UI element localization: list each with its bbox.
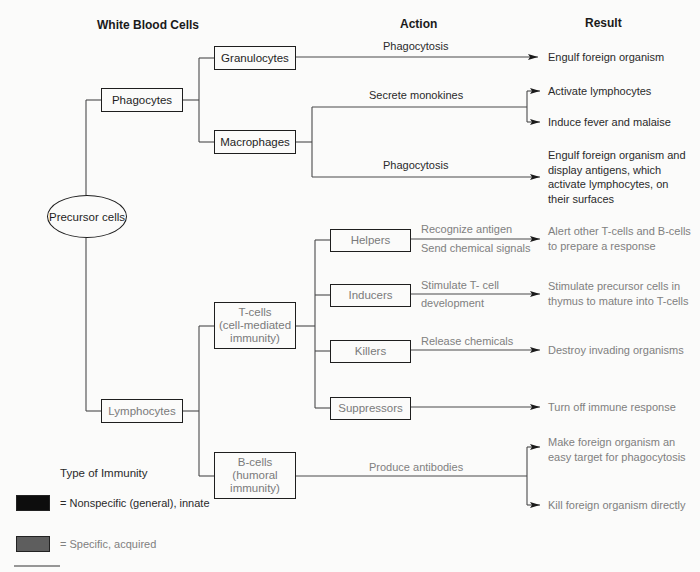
granulocytes-label: Granulocytes [221,52,289,65]
helpers-node: Helpers [330,229,411,252]
legend-label-acquired: = Specific, acquired [60,537,156,551]
header-result: Result [585,16,622,30]
legend-label-innate: = Nonspecific (general), innate [60,496,210,510]
legend-swatch-acquired [16,536,50,552]
bcells-node: B-cells (humoral immunity) [214,452,296,499]
macrophages-node: Macrophages [214,130,296,154]
killers-label: Killers [355,345,386,358]
legend-swatch-innate [16,495,50,511]
helpers-action-2: Send chemical signals [421,241,530,255]
bcells-sublabel-1: (humoral [232,469,277,482]
granulocytes-action: Phagocytosis [383,39,448,53]
bcells-result-target: Make foreign organism an easy target for… [548,435,698,464]
bcells-result-kill: Kill foreign organism directly [548,498,686,513]
precursor-cells-node: Precursor cells [47,195,127,238]
macrophages-label: Macrophages [220,136,290,149]
killers-action: Release chemicals [421,334,513,348]
tcells-label: T-cells [238,306,271,319]
macrophages-result-engulf: Engulf foreign organism and display anti… [548,148,688,206]
header-action: Action [400,17,437,31]
bcells-label: B-cells [238,456,273,469]
suppressors-label: Suppressors [338,402,403,415]
tcells-node: T-cells (cell-mediated immunity) [214,302,296,349]
tcells-sublabel-2: immunity) [230,332,280,345]
header-white-blood-cells: White Blood Cells [97,18,199,32]
macrophages-result-fever: Induce fever and malaise [548,115,671,130]
tcells-sublabel-1: (cell-mediated [219,319,291,332]
macrophages-action-phagocytosis: Phagocytosis [383,158,448,172]
bcells-action: Produce antibodies [369,460,463,474]
suppressors-node: Suppressors [330,397,411,420]
phagocytes-label: Phagocytes [112,94,172,107]
helpers-result: Alert other T-cells and B-cells to prepa… [548,224,698,253]
lymphocytes-label: Lymphocytes [108,405,175,418]
lymphocytes-node: Lymphocytes [101,399,183,423]
killers-node: Killers [330,340,411,363]
granulocytes-result: Engulf foreign organism [548,50,664,65]
inducers-action-2: development [421,296,484,310]
inducers-node: Inducers [330,284,411,307]
precursor-cells-label: Precursor cells [49,211,125,223]
macrophages-result-activate: Activate lymphocytes [548,84,651,99]
legend-title: Type of Immunity [60,466,148,480]
inducers-result: Stimulate precursor cells in thymus to m… [548,279,700,308]
suppressors-result: Turn off immune response [548,400,676,415]
phagocytes-node: Phagocytes [101,88,183,112]
bcells-sublabel-2: immunity) [230,482,280,495]
helpers-action-1: Recognize antigen [421,222,512,236]
inducers-action-1: Stimulate T- cell [421,278,499,292]
granulocytes-node: Granulocytes [214,46,296,70]
killers-result: Destroy invading organisms [548,343,684,358]
helpers-label: Helpers [351,234,391,247]
inducers-label: Inducers [348,289,392,302]
macrophages-action-secrete: Secrete monokines [369,88,463,102]
